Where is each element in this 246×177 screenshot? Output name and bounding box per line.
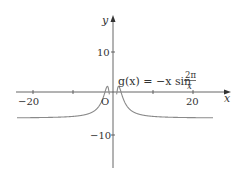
- origin-label: O: [101, 96, 109, 107]
- function-graph: −20 20 10 −10 O x y g(x) = −x sin 2π x: [0, 0, 246, 177]
- y-tick-label-10: 10: [97, 47, 110, 58]
- x-tick-label-20: 20: [186, 96, 199, 107]
- equation-numerator: 2π: [185, 70, 196, 80]
- x-tick-label-neg20: −20: [18, 96, 39, 107]
- x-axis-label: x: [224, 92, 231, 105]
- equation-denominator: x: [187, 81, 192, 91]
- y-axis-arrow-icon: [111, 15, 116, 22]
- equation-lhs: g(x) = −x sin: [118, 75, 191, 88]
- equation-annotation: g(x) = −x sin 2π x: [118, 70, 196, 91]
- y-tick-label-neg10: −10: [90, 130, 111, 141]
- y-axis-label: y: [101, 14, 109, 27]
